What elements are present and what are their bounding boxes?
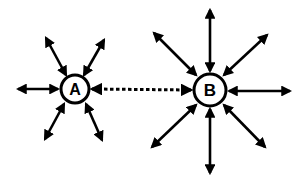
arrow-a-southwest-icon	[45, 104, 64, 139]
nodes-layer: AB	[61, 74, 226, 106]
node-label: A	[69, 81, 81, 98]
node-a: A	[61, 75, 89, 103]
node-label: B	[204, 81, 216, 100]
arrow-a-to-b-icon	[92, 89, 191, 90]
arrow-b-northwest-icon	[154, 33, 196, 75]
arrow-b-southwest-icon	[152, 105, 196, 147]
arrows-layer	[18, 10, 290, 173]
arrow-b-northeast-icon	[224, 35, 267, 75]
node-b: B	[194, 74, 226, 106]
arrow-b-southeast-icon	[224, 105, 265, 147]
diagram-svg: AB	[0, 0, 304, 180]
arrow-a-northeast-icon	[84, 40, 104, 75]
diagram-canvas: AB	[0, 0, 304, 180]
arrow-a-northwest-icon	[46, 38, 66, 75]
arrow-a-southeast-icon	[86, 104, 102, 140]
